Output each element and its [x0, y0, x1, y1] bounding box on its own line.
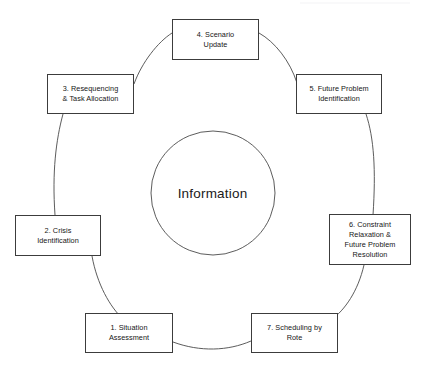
node-3-resequencing-task-allocation[interactable]: 3. Resequencing & Task Allocation — [47, 74, 134, 114]
ring-arc-top-right — [259, 33, 297, 83]
node-5-future-problem-identification[interactable]: 5. Future Problem Identification — [296, 74, 382, 114]
ring-arc-bottom — [173, 341, 251, 349]
ring-arc-top-left — [134, 33, 172, 84]
cycle-diagram: 1. Situation Assessment 2. Crisis Identi… — [0, 0, 425, 374]
center-label-information: Information — [0, 186, 425, 201]
ring-arc-left-lower — [92, 256, 123, 319]
ring-arc-right-lower — [331, 265, 364, 320]
node-2-crisis-identification[interactable]: 2. Crisis Identification — [15, 215, 101, 256]
node-1-situation-assessment[interactable]: 1. Situation Assessment — [85, 313, 173, 353]
node-7-scheduling-by-rote[interactable]: 7. Scheduling by Rote — [251, 313, 338, 353]
node-4-scenario-update[interactable]: 4. Scenario Update — [172, 19, 259, 60]
node-6-constraint-relaxation-future-problem-resolution[interactable]: 6. Constraint Relaxation & Future Proble… — [329, 214, 411, 265]
